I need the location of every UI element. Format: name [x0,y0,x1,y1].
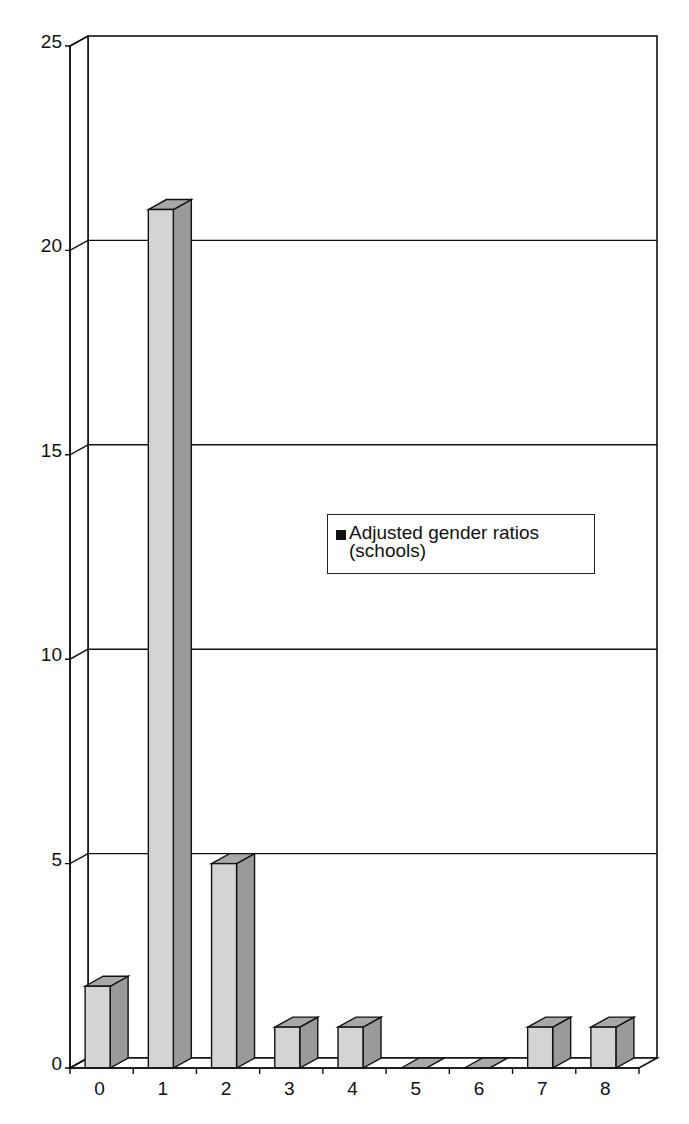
bar [591,1017,634,1068]
bar [528,1017,571,1068]
x-axis-ticks: 012345678 [70,1068,639,1099]
y-tick-label: 25 [41,31,62,52]
legend-label-line2: (schools) [349,540,426,561]
legend-label: Adjusted gender ratios (schools) [349,524,539,560]
x-tick-label: 6 [474,1078,485,1099]
legend-swatch-icon [336,530,346,540]
x-tick-label: 2 [221,1078,232,1099]
bar [85,976,128,1068]
x-tick-label: 3 [284,1078,295,1099]
y-tick-label: 15 [41,440,62,461]
x-tick-label: 8 [600,1078,611,1099]
x-tick-label: 0 [94,1078,105,1099]
x-tick-label: 5 [410,1078,421,1099]
y-axis-ticks: 0510152025 [41,31,62,1074]
bar [338,1017,381,1068]
bar [275,1017,318,1068]
legend: Adjusted gender ratios (schools) [327,514,595,574]
x-tick-label: 1 [158,1078,169,1099]
bar [148,200,191,1068]
x-tick-label: 4 [347,1078,358,1099]
y-tick-label: 5 [51,849,62,870]
y-tick-label: 20 [41,235,62,256]
y-tick-label: 0 [51,1053,62,1074]
bar [212,854,255,1068]
y-tick-label: 10 [41,644,62,665]
x-tick-label: 7 [537,1078,548,1099]
